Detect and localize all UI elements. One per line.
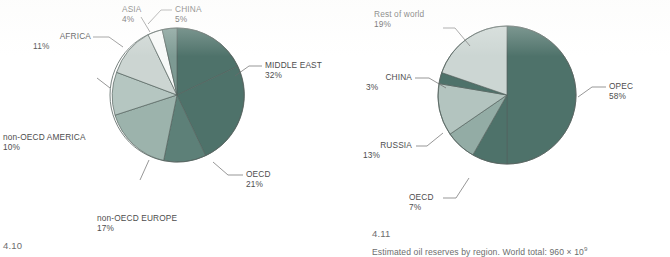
pie-chart-4-10 (109, 27, 245, 163)
pie-slice-opec (507, 26, 576, 164)
leader-opec (578, 87, 606, 97)
leader-nonoecd-europe-left (140, 160, 149, 180)
label-non-oecd-america: non-OECD AMERICA 10% (3, 132, 86, 153)
figure-number-4-10: 4.10 (3, 240, 22, 251)
pie-chart-4-11 (437, 25, 577, 165)
label-asia: ASIA 4% (122, 4, 142, 25)
leader-oecd-right (443, 178, 469, 198)
label-oecd-left: OECD 21% (246, 169, 271, 190)
leader-oecd-left (213, 162, 243, 175)
figure-caption-4-11: Estimated oil reserves by region. World … (372, 245, 588, 257)
pie-chart-4-11-svg (437, 25, 577, 165)
label-non-oecd-europe: non-OECD EUROPE 17% (97, 213, 177, 234)
figure-area: ASIA 4% CHINA 5% AFRICA 11% non-OECD AME… (0, 0, 670, 257)
label-china: CHINA 5% (175, 4, 202, 25)
label-oecd-right: OECD 7% (409, 192, 434, 213)
label-russia: RUSSIA 13% (363, 140, 412, 161)
leader-china-left (148, 10, 172, 24)
label-africa: AFRICA 11% (33, 31, 91, 52)
figure-number-4-11: 4.11 (372, 228, 391, 239)
label-middle-east: MIDDLE EAST 32% (265, 60, 322, 81)
label-rest-of-world: Rest of world 19% (374, 9, 424, 30)
pie-chart-4-10-svg (109, 27, 245, 163)
label-opec: OPEC 58% (609, 81, 633, 102)
label-china-right: CHINA 3% (366, 72, 412, 93)
